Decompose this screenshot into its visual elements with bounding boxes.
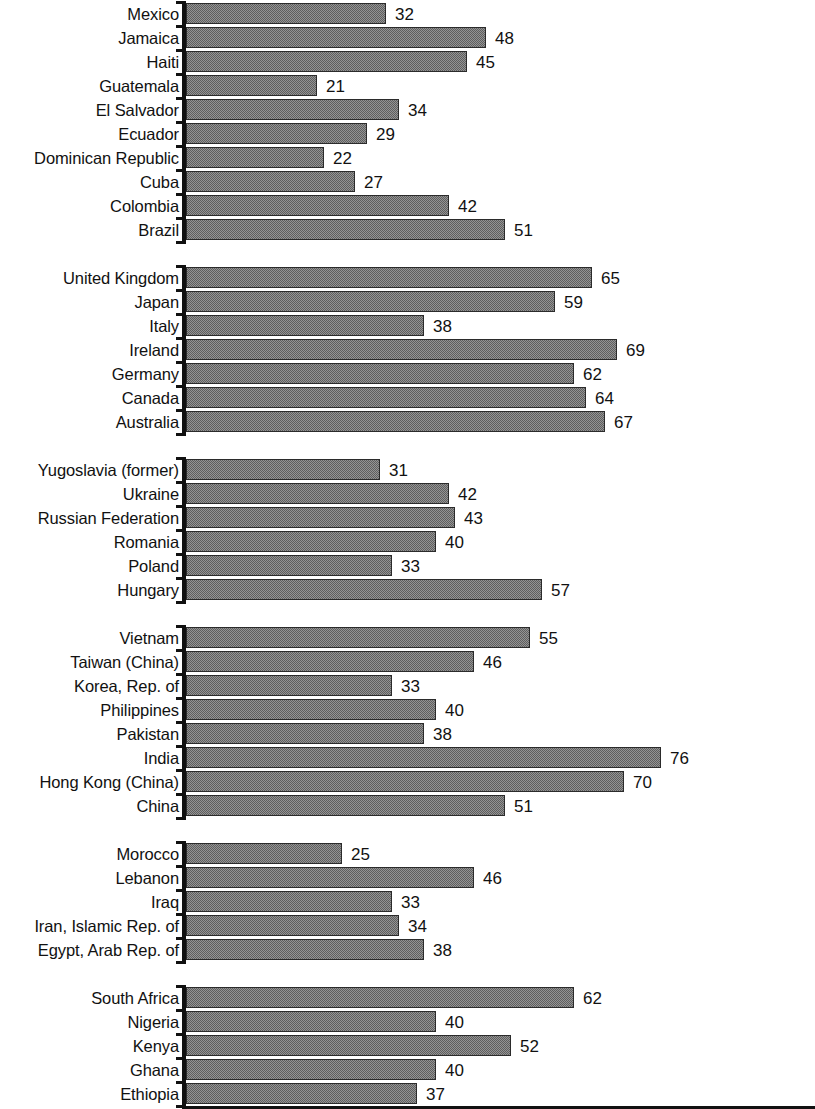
bar-row: Ukraine42 [0,482,815,506]
value-label: 40 [445,1014,464,1031]
category-label: Iraq [0,894,179,911]
bar-row: Hungary57 [0,578,815,602]
bar-row: Germany62 [0,362,815,386]
bar-row: Kenya52 [0,1034,815,1058]
bar-row: Jamaica48 [0,26,815,50]
category-label: Taiwan (China) [0,654,179,671]
bar-row: Philippines40 [0,698,815,722]
category-label: Jamaica [0,30,179,47]
value-label: 45 [476,54,495,71]
bar [186,51,467,72]
bar [186,483,449,504]
category-label: Ukraine [0,486,179,503]
bar [186,339,617,360]
bar [186,219,505,240]
bar [186,459,380,480]
bar [186,75,317,96]
bar [186,555,392,576]
value-label: 52 [520,1038,539,1055]
bar-row: Iran, Islamic Rep. of34 [0,914,815,938]
bar [186,915,399,936]
value-label: 37 [426,1086,445,1103]
bar-row: India76 [0,746,815,770]
bar [186,699,436,720]
value-label: 21 [326,78,345,95]
bar-row: Vietnam55 [0,626,815,650]
category-label: Iran, Islamic Rep. of [0,918,179,935]
bar [186,579,542,600]
value-label: 48 [495,30,514,47]
bar [186,675,392,696]
category-label: Russian Federation [0,510,179,527]
category-label: Korea, Rep. of [0,678,179,695]
bar-row: Korea, Rep. of33 [0,674,815,698]
bar-row: Guatemala21 [0,74,815,98]
category-label: India [0,750,179,767]
bar [186,291,555,312]
bar-row: Haiti45 [0,50,815,74]
value-label: 55 [539,630,558,647]
value-label: 51 [514,222,533,239]
bar [186,771,624,792]
bar [186,99,399,120]
category-axis-segment [182,626,186,818]
category-axis-segment [182,2,186,242]
value-label: 64 [595,390,614,407]
bar [186,627,530,648]
bar-row: South Africa62 [0,986,815,1010]
bar-row: Hong Kong (China)70 [0,770,815,794]
category-label: Italy [0,318,179,335]
bar-row: Cuba27 [0,170,815,194]
bar [186,987,574,1008]
bar [186,843,342,864]
category-label: Japan [0,294,179,311]
value-label: 59 [564,294,583,311]
value-label: 46 [483,870,502,887]
category-label: Romania [0,534,179,551]
category-label: Australia [0,414,179,431]
value-label: 62 [583,990,602,1007]
category-label: Mexico [0,6,179,23]
bar [186,3,386,24]
bar [186,195,449,216]
bar-row: Ireland69 [0,338,815,362]
bar-row: Dominican Republic22 [0,146,815,170]
category-label: El Salvador [0,102,179,119]
category-label: United Kingdom [0,270,179,287]
value-label: 40 [445,534,464,551]
category-label: Hungary [0,582,179,599]
category-label: Haiti [0,54,179,71]
bar-row: Australia67 [0,410,815,434]
bar-row: Egypt, Arab Rep. of38 [0,938,815,962]
value-label: 25 [351,846,370,863]
bar [186,867,474,888]
value-label: 33 [401,894,420,911]
bar [186,171,355,192]
bar-row: Japan59 [0,290,815,314]
bar-row: Ghana40 [0,1058,815,1082]
bar [186,363,574,384]
category-label: Ghana [0,1062,179,1079]
bar-row: Iraq33 [0,890,815,914]
value-label: 31 [389,462,408,479]
bar [186,507,455,528]
category-axis-segment [182,986,186,1106]
bar-row: Russian Federation43 [0,506,815,530]
bar [186,123,367,144]
value-label: 40 [445,702,464,719]
bar-row: United Kingdom65 [0,266,815,290]
bar-row: Nigeria40 [0,1010,815,1034]
category-axis-segment [182,458,186,602]
category-label: South Africa [0,990,179,1007]
bar [186,147,324,168]
value-label: 65 [601,270,620,287]
bar-row: Poland33 [0,554,815,578]
bar [186,939,424,960]
value-label: 22 [333,150,352,167]
category-label: Hong Kong (China) [0,774,179,791]
bar [186,531,436,552]
value-label: 34 [408,918,427,935]
category-label: Morocco [0,846,179,863]
value-label: 76 [670,750,689,767]
bar [186,1083,417,1104]
